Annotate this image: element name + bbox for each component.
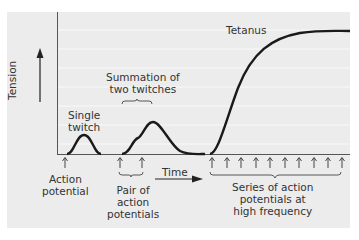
summation-brace xyxy=(122,99,152,104)
action-potential-label: Action potential xyxy=(42,173,89,197)
action-potential-arrow-icon xyxy=(63,158,68,169)
series-label: Series of action potentials at high freq… xyxy=(232,181,313,217)
single-twitch-label: Single twitch xyxy=(68,109,100,133)
summation-label: Summation of two twitches xyxy=(106,71,180,95)
gridlines xyxy=(58,30,350,144)
series-brace xyxy=(210,172,341,178)
series-arrow-icons xyxy=(210,158,345,169)
pair-arrow-icon-1 xyxy=(118,158,123,169)
pair-arrow-icon-2 xyxy=(140,158,145,169)
tetanus-label: Tetanus xyxy=(226,24,266,36)
pair-brace xyxy=(119,172,143,177)
summation-curve xyxy=(122,122,205,154)
stimulus-arrows xyxy=(63,158,345,169)
tension-arrow-icon xyxy=(37,48,44,102)
y-axis-label: Tension xyxy=(6,61,18,100)
x-axis-label: Time xyxy=(162,166,188,178)
pair-label: Pair of action potentials xyxy=(107,184,159,220)
